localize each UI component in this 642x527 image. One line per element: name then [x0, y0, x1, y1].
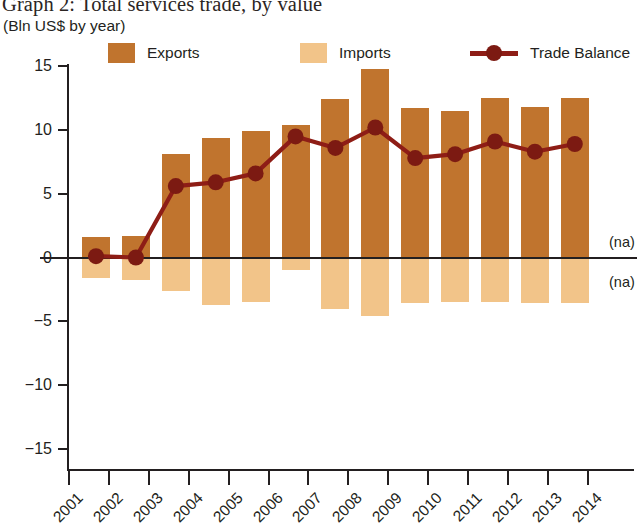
- trade-balance-marker: [367, 120, 383, 136]
- trade-balance-marker: [248, 165, 264, 181]
- trade-balance-marker: [487, 134, 503, 150]
- trade-balance-marker: [407, 150, 423, 166]
- trade-balance-marker: [447, 146, 463, 162]
- trade-balance-marker: [327, 140, 343, 156]
- trade-balance-marker: [288, 128, 304, 144]
- na-annotation: (na): [609, 234, 635, 250]
- trade-balance-marker: [208, 174, 224, 190]
- trade-balance-marker: [128, 250, 144, 266]
- trade-balance-marker: [88, 248, 104, 264]
- na-annotation: (na): [609, 274, 635, 290]
- trade-balance-marker: [527, 144, 543, 160]
- trade-balance-marker: [567, 136, 583, 152]
- trade-balance-marker: [168, 178, 184, 194]
